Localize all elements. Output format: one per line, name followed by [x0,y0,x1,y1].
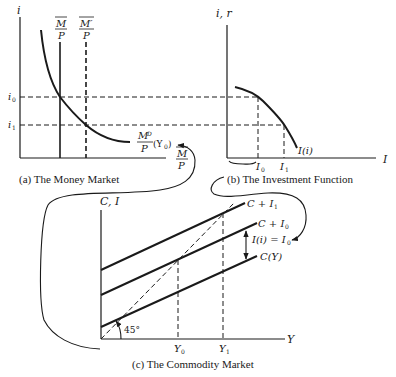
svg-text:i: i [8,119,11,130]
commodity-x-label: Y [287,333,296,346]
svg-text:P: P [177,160,185,171]
investment-gap-label: I(i) = I 0 [251,234,291,246]
svg-text:): ) [168,139,172,149]
money-market-caption: (a) The Money Market [19,173,119,186]
svg-text:P: P [57,30,65,41]
svg-text:C + I: C + I [258,218,285,229]
svg-text:C + I: C + I [247,198,274,209]
investment-tick-i0: I 0 [255,161,265,173]
svg-text:1: 1 [274,203,278,210]
income-tick-y1: Y 1 [219,343,230,355]
svg-text:1: 1 [226,348,230,355]
investment-i0-bracket [229,161,256,164]
investment-y-label: i, r [216,7,233,20]
consumption-line [101,256,257,327]
svg-text:I(i) = I: I(i) = I [251,234,287,245]
svg-text:0: 0 [287,239,291,246]
money-supply-shifted-label: M′ P [79,17,94,41]
svg-text:M: M [55,18,67,29]
svg-text:0: 0 [261,166,265,173]
svg-text:0: 0 [12,96,16,103]
investment-tick-i1: I 1 [279,161,289,173]
svg-text:1: 1 [285,166,289,173]
svg-text:(Y: (Y [153,139,164,149]
svg-text:0: 0 [181,348,185,355]
money-market-x-label: M P [176,147,188,171]
income-tick-y0: Y 0 [174,343,185,355]
money-demand-label: M D P (Y 0 ) [137,130,172,154]
rate-tick-i0: i 0 [8,91,16,103]
panel-money-market: i M P M P M′ P M D P [8,4,188,186]
svg-text:M: M [176,148,188,159]
svg-text:i: i [8,91,11,102]
svg-text:M′: M′ [79,18,93,29]
investment-curve [235,87,297,148]
commodity-y-label: C, I [100,195,120,208]
investment-curve-label: I(i) [297,145,313,156]
money-market-y-label: i [17,4,21,17]
svg-text:D: D [146,130,152,137]
consumption-label: C(Y) [260,251,282,262]
svg-text:P: P [140,143,148,154]
panel-investment-function: i, r I I(i) I 0 I 1 (b) The Investment F… [216,7,388,186]
money-supply-label: M P [55,17,67,41]
investment-x-label: I [382,153,388,166]
angle-label: 45° [124,325,140,335]
rate-tick-i1: i 1 [8,119,16,131]
aggregate-demand-i0-label: C + I 0 [258,218,289,230]
angle-arc [116,321,121,339]
commodity-caption: (c) The Commodity Market [132,358,254,371]
svg-text:P: P [82,30,90,41]
svg-text:0: 0 [285,223,289,230]
svg-text:1: 1 [12,124,16,131]
panel-commodity-market: C, I Y 45° C + I 1 C + I 0 C(Y) I(i) = I… [100,195,296,371]
aggregate-demand-i1-label: C + I 1 [247,198,278,210]
investment-caption: (b) The Investment Function [227,173,353,186]
is-lm-derivation-diagram: i M P M P M′ P M D P [0,0,396,377]
